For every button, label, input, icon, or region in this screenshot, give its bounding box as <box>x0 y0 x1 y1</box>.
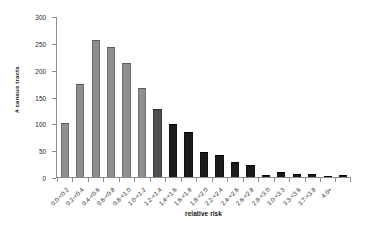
x-tick <box>88 178 103 182</box>
bar <box>215 155 223 177</box>
x-tick <box>72 178 87 182</box>
x-tick <box>196 178 211 182</box>
plot-area: 050100150200250300 0.0-<0.20.2-<0.40.4-<… <box>56 17 351 178</box>
bar-slot <box>57 17 72 177</box>
x-axis-labels: 0.0-<0.20.2-<0.40.4-<0.60.6-<0.80.8-<1.0… <box>57 183 351 223</box>
bar-slot <box>72 17 87 177</box>
bar-slot <box>258 17 273 177</box>
bar <box>76 84 84 177</box>
x-tick <box>212 178 227 182</box>
bar <box>308 174 316 177</box>
x-tick <box>150 178 165 182</box>
y-tick: 200 <box>52 71 56 72</box>
y-tick-label: 0 <box>20 175 46 182</box>
bar-slot <box>103 17 118 177</box>
y-tick-label: 100 <box>20 121 46 128</box>
x-tick <box>165 178 180 182</box>
y-tick-label: 300 <box>20 14 46 21</box>
y-axis-title: # census tracts <box>13 45 20 135</box>
bar <box>324 176 332 177</box>
x-axis-title: relative risk <box>56 210 351 217</box>
bar-series <box>57 17 351 177</box>
bar-slot <box>320 17 335 177</box>
bar-slot <box>243 17 258 177</box>
x-tick <box>335 178 350 182</box>
bar-slot <box>119 17 134 177</box>
y-tick: 250 <box>52 44 56 45</box>
bar <box>107 47 115 177</box>
bar <box>293 174 301 177</box>
x-tick <box>181 178 196 182</box>
y-tick: 50 <box>52 151 56 152</box>
bar-slot <box>212 17 227 177</box>
x-tick-label: 4.0+ <box>319 186 332 199</box>
x-tick <box>274 178 289 182</box>
bar <box>184 132 192 177</box>
x-tick <box>243 178 258 182</box>
y-tick-label: 200 <box>20 67 46 74</box>
x-tick <box>57 178 72 182</box>
x-label-slot: 3.7-<3.8 <box>305 183 320 223</box>
y-tick-label: 150 <box>20 94 46 101</box>
bar-slot <box>305 17 320 177</box>
y-tick: 300 <box>52 17 56 18</box>
y-tick: 150 <box>52 98 56 99</box>
bar <box>246 165 254 177</box>
x-tick <box>258 178 273 182</box>
x-tick <box>119 178 134 182</box>
bar-slot <box>165 17 180 177</box>
y-tick-label: 250 <box>20 40 46 47</box>
bar-chart: # census tracts 050100150200250300 0.0-<… <box>0 0 368 235</box>
bar <box>138 88 146 177</box>
bar <box>262 175 270 177</box>
bar-slot <box>181 17 196 177</box>
x-label-slot: 4.0+ <box>320 183 335 223</box>
y-tick: 0 <box>52 178 56 179</box>
bar <box>92 40 100 177</box>
bar <box>339 175 347 177</box>
x-tick <box>320 178 335 182</box>
bar-slot <box>227 17 242 177</box>
bar-slot <box>274 17 289 177</box>
x-label-slot <box>335 183 350 223</box>
x-tick <box>134 178 149 182</box>
bar <box>153 109 161 177</box>
bar <box>231 162 239 177</box>
x-tick <box>103 178 118 182</box>
bar-slot <box>134 17 149 177</box>
bar <box>200 152 208 177</box>
bar-slot <box>289 17 304 177</box>
bar <box>122 63 130 177</box>
bar-slot <box>335 17 350 177</box>
bar-slot <box>88 17 103 177</box>
bar-slot <box>150 17 165 177</box>
x-tick <box>227 178 242 182</box>
x-tick <box>305 178 320 182</box>
y-tick: 100 <box>52 124 56 125</box>
x-axis-ticks <box>57 178 351 182</box>
x-tick <box>289 178 304 182</box>
y-tick-label: 50 <box>20 148 46 155</box>
bar <box>277 172 285 177</box>
bar <box>61 123 69 177</box>
bar-slot <box>196 17 211 177</box>
bar <box>169 124 177 177</box>
